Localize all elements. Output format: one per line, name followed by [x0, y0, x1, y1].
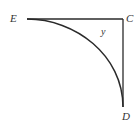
- arc-ed: [27, 19, 123, 107]
- geometry-diagram: E C D y: [0, 0, 137, 122]
- label-d: D: [121, 110, 130, 122]
- label-e: E: [9, 12, 17, 24]
- label-angle-y: y: [100, 26, 106, 37]
- label-c: C: [126, 12, 134, 24]
